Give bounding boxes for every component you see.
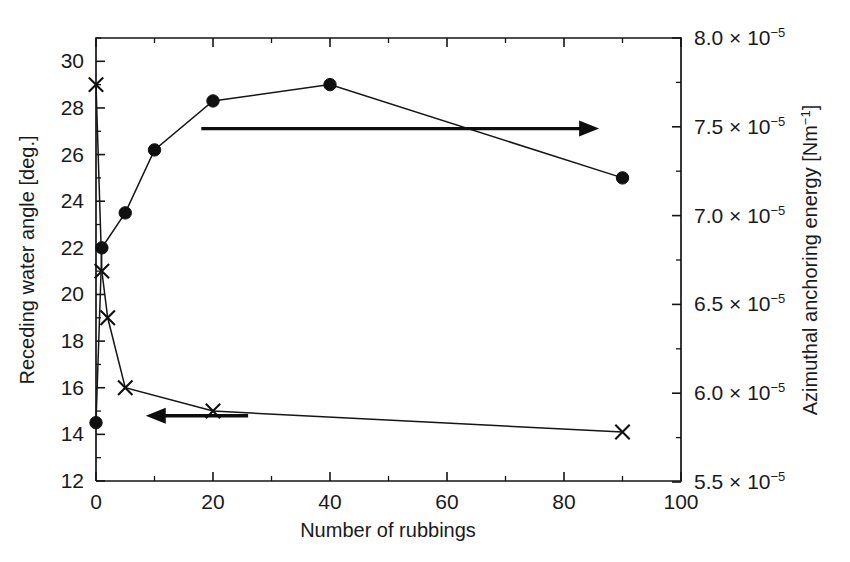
annotation-layer: [146, 121, 599, 424]
y-tick-label: 16: [61, 376, 84, 399]
y-tick-label: 26: [61, 143, 84, 166]
x-axis-title: Number of rubbings: [300, 519, 476, 541]
data-point-dot[interactable]: [324, 78, 336, 90]
y2-tick-mantissa: 8.0 × 10: [694, 26, 770, 49]
y-tick-label: 18: [61, 329, 84, 352]
y2-title-tail: ]: [799, 105, 821, 111]
y2-tick-mantissa: 6.5 × 10: [694, 292, 770, 315]
y2-tick-exponent: −5: [770, 380, 785, 395]
data-point-dot[interactable]: [207, 95, 219, 107]
y2-tick-exponent: −5: [770, 469, 785, 484]
y2-tick-label: 6.5 × 10−5: [694, 291, 785, 315]
arrow-to-right-axis-head: [579, 121, 599, 137]
y2-tick-exponent: −5: [770, 25, 785, 40]
chart-figure: 020406080100 12141618202224262830 5.5 × …: [0, 0, 850, 562]
y-tick-label: 28: [61, 96, 84, 119]
chart-canvas: 020406080100 12141618202224262830 5.5 × …: [0, 0, 850, 562]
y-tick-label: 14: [61, 422, 85, 445]
y2-tick-label: 8.0 × 10−5: [694, 25, 785, 49]
y-axis-left-title: Receding water angle [deg.]: [16, 135, 38, 384]
y-axis-right-title: Azimuthal anchoring energy [Nm−1]: [798, 105, 821, 416]
y-tick-label: 12: [61, 469, 84, 492]
x-tick-label: 20: [201, 490, 224, 513]
data-point-dot[interactable]: [119, 207, 131, 219]
y2-tick-mantissa: 7.0 × 10: [694, 204, 770, 227]
arrow-to-left-axis-head: [146, 408, 166, 424]
y2-title-exponent: −1: [798, 110, 813, 125]
y-axis-right-tick-labels: 5.5 × 10−56.0 × 10−56.5 × 10−57.0 × 10−5…: [694, 25, 785, 493]
y-tick-label: 20: [61, 282, 84, 305]
data-point-dot[interactable]: [90, 417, 102, 429]
y2-tick-exponent: −5: [770, 114, 785, 129]
data-point-dot[interactable]: [616, 172, 628, 184]
x-tick-label: 100: [663, 490, 698, 513]
y-tick-label: 22: [61, 236, 84, 259]
series-line-anchoring-energy: [96, 85, 623, 423]
y2-tick-exponent: −5: [770, 291, 785, 306]
y-axis-left-tick-labels: 12141618202224262830: [61, 49, 85, 492]
x-tick-label: 80: [552, 490, 575, 513]
x-axis-tick-labels: 020406080100: [90, 490, 698, 513]
data-point-dot[interactable]: [148, 144, 160, 156]
y2-tick-label: 5.5 × 10−5: [694, 469, 785, 493]
y-tick-label: 24: [61, 189, 85, 212]
y2-title-main: Azimuthal anchoring energy [Nm: [799, 125, 821, 415]
series-line-water-angle: [96, 85, 623, 432]
y2-tick-exponent: −5: [770, 203, 785, 218]
x-tick-label: 0: [90, 490, 102, 513]
y-tick-label: 30: [61, 49, 84, 72]
y-axis-right-ticks: [672, 38, 681, 482]
data-series-layer: [89, 77, 630, 439]
x-tick-label: 60: [435, 490, 458, 513]
data-point-cross[interactable]: [118, 381, 132, 395]
y2-tick-mantissa: 6.0 × 10: [694, 381, 770, 404]
y2-tick-label: 7.5 × 10−5: [694, 114, 785, 138]
y2-tick-mantissa: 7.5 × 10: [694, 115, 770, 138]
y2-tick-mantissa: 5.5 × 10: [694, 470, 770, 493]
y2-tick-label: 7.0 × 10−5: [694, 203, 785, 227]
data-point-dot[interactable]: [96, 242, 108, 254]
y2-tick-label: 6.0 × 10−5: [694, 380, 785, 404]
x-tick-label: 40: [318, 490, 341, 513]
